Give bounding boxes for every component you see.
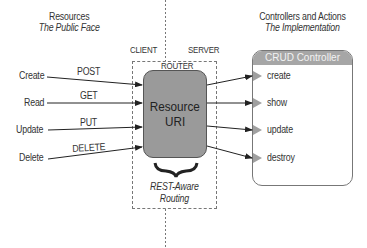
arrow-create [47, 77, 142, 85]
diagram-connectors [0, 0, 367, 248]
arrow-update [48, 127, 142, 130]
arrow-delete [48, 147, 142, 159]
arrow-to-update [207, 126, 252, 130]
marker-destroy-icon [253, 153, 262, 163]
marker-update-icon [253, 125, 262, 135]
arrow-to-create [207, 76, 252, 85]
arrow-to-destroy [207, 146, 252, 158]
marker-show-icon [253, 98, 262, 108]
marker-create-icon [253, 71, 262, 81]
brace-icon [155, 163, 197, 177]
